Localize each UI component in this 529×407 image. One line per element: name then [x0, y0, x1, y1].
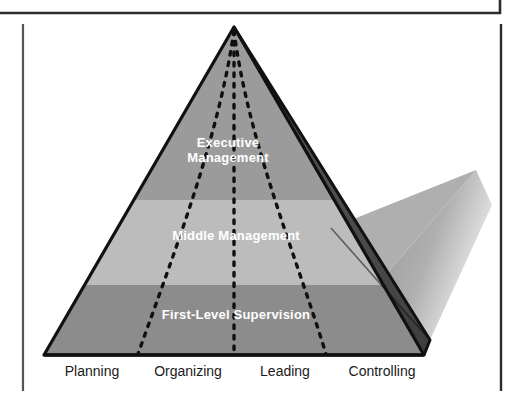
level-label-executive-line1: Executive — [197, 135, 260, 150]
level-label-first-level: First-Level Supervision — [162, 307, 310, 322]
level-label-executive-line2: Management — [187, 150, 269, 165]
axis-label-planning: Planning — [65, 363, 120, 379]
management-pyramid-diagram: Executive Management Middle Management F… — [0, 0, 529, 407]
band-first-level — [0, 285, 529, 407]
axis-label-organizing: Organizing — [154, 363, 222, 379]
axis-label-controlling: Controlling — [349, 363, 416, 379]
band-executive — [0, 0, 529, 200]
level-label-middle: Middle Management — [172, 228, 300, 243]
axis-label-leading: Leading — [260, 363, 310, 379]
figure-canvas: Executive Management Middle Management F… — [0, 0, 529, 407]
